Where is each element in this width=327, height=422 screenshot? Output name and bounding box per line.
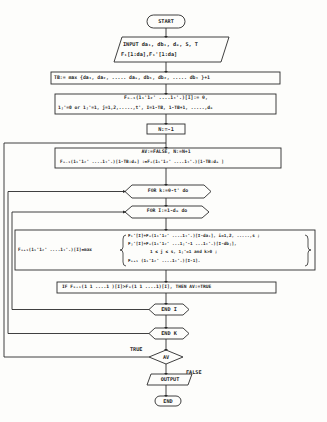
init-line2: 1ⱼ'=0 or 1ⱼ'=1, j=1,2,.....,t', I=1-TB, … bbox=[58, 106, 213, 111]
end-label: END bbox=[163, 399, 172, 404]
for-i-label: FOR I:=1-dₘ do bbox=[147, 209, 187, 214]
end-k-label: END K bbox=[161, 331, 177, 336]
av-line1: AV:=FALSE, N:=N+1 bbox=[141, 150, 190, 155]
right-brace bbox=[305, 235, 311, 266]
end-i-label: END I bbox=[161, 307, 177, 312]
input-line2: F₁[1:da],F₁'[1:da] bbox=[121, 52, 177, 57]
n-init-label: N:=-1 bbox=[158, 127, 174, 132]
true-label: TRUE bbox=[130, 347, 143, 352]
formula-lhs: Fₙ₊₁(1₁'1₂' ....1ₜ'.)[I]=max bbox=[18, 248, 92, 252]
av-line2: Fₙ₋₁(1₁'1₂' ....1ₜ'.)[1-TB:dₘ] :=Fₙ(1₁'1… bbox=[60, 160, 224, 164]
false-label: FALSE bbox=[186, 370, 202, 375]
for-k-label: FOR k:=0-t' do bbox=[148, 189, 188, 194]
init-line1: Fₙ₋₁(1₁'1₂' ....1ₜ'.)[I]:= 0, bbox=[124, 96, 208, 101]
formula-case2: Fⱼ'[I]+Fₙ(1₁'1₂' ...1ⱼ'-1 ...1ₜ'.)[I-dbⱼ… bbox=[128, 242, 237, 246]
start-label: START bbox=[158, 19, 174, 24]
tb-label: TB:= max {da₁, da₂, ..... daₛ, db₁, db₂,… bbox=[54, 76, 210, 81]
output-label: OUTPUT bbox=[161, 377, 180, 382]
formula-case1: Fᵢ'[I]+Fₙ(1₁'1₂' ....1ₜ'.)[I-daᵢ], i=1,2… bbox=[128, 234, 260, 238]
formula-case2b: 1 ≤ j ≤ s, 1ⱼ'=1 and k>0 ; bbox=[150, 250, 217, 254]
input-line1: INPUT da₁, db₁, dₘ, S, T bbox=[123, 42, 198, 47]
formula-case3: Fₙ₊₁ (1₁'1₂' ....1ₜ'.)[I-1]. bbox=[128, 259, 200, 263]
decision-label: AV bbox=[163, 355, 169, 360]
left-brace bbox=[120, 235, 126, 266]
if-label: IF Fₙ₊₁(1 1 ....1 )[I]>Fₙ(1 1 ....1)[I],… bbox=[62, 285, 211, 290]
